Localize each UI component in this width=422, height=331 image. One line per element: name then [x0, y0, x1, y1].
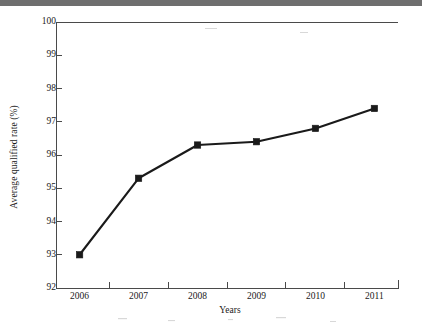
y-axis-tick-marks: [56, 22, 62, 255]
data-point-markers: [76, 105, 377, 258]
data-point-marker-2011: [371, 105, 377, 111]
scan-speck-2: [228, 319, 233, 320]
data-point-marker-2008: [194, 142, 200, 148]
scan-speck-3: [276, 317, 286, 318]
scan-speck-5: [205, 28, 217, 29]
data-series-line: [80, 108, 375, 254]
scan-specks: [118, 28, 336, 322]
data-point-marker-2006: [76, 252, 82, 258]
scan-speck-6: [300, 32, 308, 33]
scan-speck-1: [168, 320, 175, 321]
scan-speck-4: [330, 321, 336, 322]
line-chart-figure: Average qualified rate (%) Years 9293949…: [0, 0, 422, 331]
axis-frame: [56, 22, 398, 288]
data-point-marker-2010: [312, 125, 318, 131]
x-axis-tick-marks: [109, 282, 345, 288]
axis-frame-line: [56, 22, 398, 288]
scan-speck-0: [118, 318, 127, 319]
plot-area: [0, 0, 422, 331]
data-point-marker-2009: [253, 139, 259, 145]
data-point-marker-2007: [135, 175, 141, 181]
